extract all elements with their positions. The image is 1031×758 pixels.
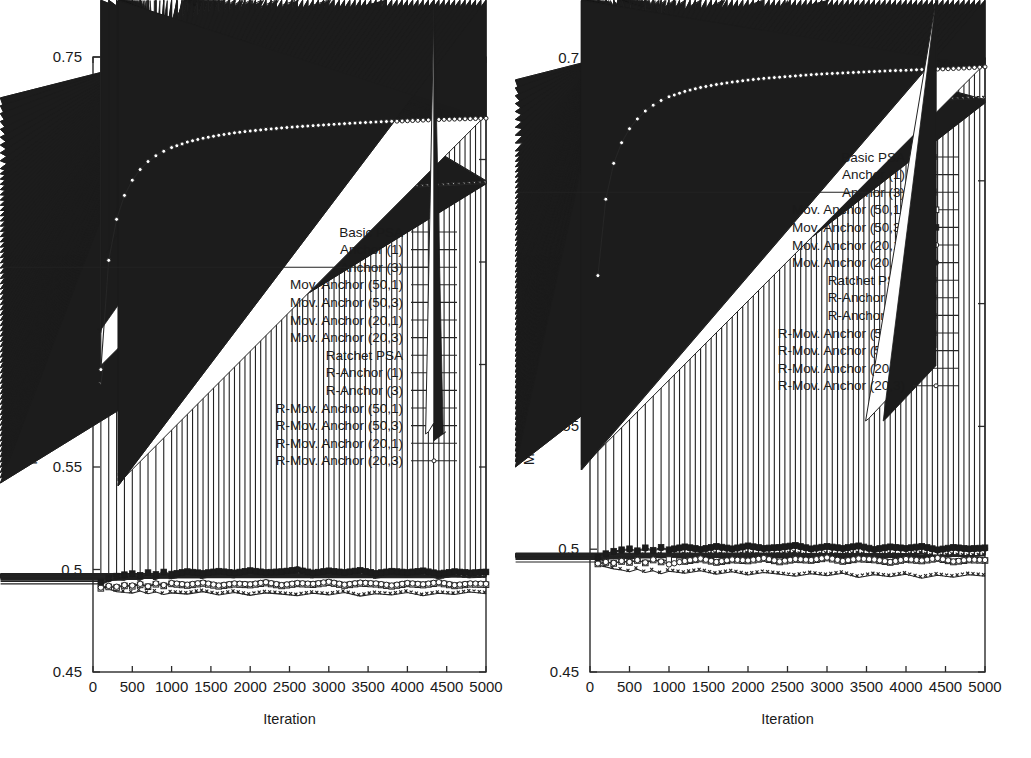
data-point-marker bbox=[343, 122, 347, 126]
data-point-marker bbox=[232, 131, 236, 135]
data-point-marker bbox=[877, 547, 882, 552]
data-point-marker bbox=[871, 572, 874, 575]
data-point-marker bbox=[867, 546, 872, 551]
data-point-marker bbox=[348, 121, 352, 125]
data-point-marker bbox=[268, 580, 273, 585]
data-point-marker bbox=[473, 571, 478, 576]
data-point-marker bbox=[122, 573, 127, 578]
data-point-marker bbox=[462, 570, 467, 575]
data-point-marker bbox=[206, 581, 211, 586]
data-point-marker bbox=[903, 571, 906, 574]
data-point-marker bbox=[746, 78, 750, 82]
data-point-marker bbox=[467, 589, 470, 592]
data-point-marker bbox=[122, 193, 126, 197]
y-tick-label: 0.75 bbox=[53, 48, 82, 65]
data-point-marker bbox=[389, 583, 394, 588]
data-point-marker bbox=[137, 588, 140, 591]
data-point-marker bbox=[972, 557, 977, 562]
data-point-marker bbox=[772, 76, 776, 80]
data-point-marker bbox=[798, 557, 803, 562]
data-point-marker bbox=[725, 81, 729, 85]
data-point-marker bbox=[227, 132, 231, 136]
data-point-marker bbox=[761, 547, 766, 552]
data-point-marker bbox=[611, 560, 616, 565]
data-point-marker bbox=[920, 68, 924, 72]
data-point-marker bbox=[217, 133, 221, 137]
data-point-marker bbox=[693, 87, 697, 91]
data-point-marker bbox=[672, 561, 677, 566]
data-point-marker bbox=[179, 581, 184, 586]
data-point-marker bbox=[720, 82, 724, 86]
data-point-marker bbox=[462, 590, 465, 593]
data-point-marker bbox=[180, 142, 184, 146]
data-point-marker bbox=[242, 581, 247, 586]
data-point-marker bbox=[405, 580, 410, 585]
data-point-marker bbox=[915, 68, 919, 72]
data-point-marker bbox=[394, 570, 399, 575]
data-point-marker bbox=[130, 572, 135, 577]
data-point-marker bbox=[145, 584, 150, 589]
data-point-marker bbox=[703, 547, 708, 552]
data-point-marker bbox=[803, 546, 808, 551]
data-point-marker bbox=[457, 582, 462, 587]
x-tick-label: 5000 bbox=[469, 678, 502, 695]
data-point-marker bbox=[756, 556, 761, 561]
data-point-marker bbox=[107, 258, 111, 262]
data-point-marker bbox=[484, 116, 488, 120]
data-point-marker bbox=[342, 570, 347, 575]
data-point-marker bbox=[379, 120, 383, 124]
data-point-marker bbox=[426, 118, 430, 122]
data-point-marker bbox=[687, 557, 692, 562]
data-point-marker bbox=[169, 572, 174, 577]
data-point-marker bbox=[161, 582, 166, 587]
data-point-marker bbox=[814, 546, 819, 551]
legend-item-1[interactable]: Anchor (1) bbox=[842, 167, 959, 182]
data-point-marker bbox=[369, 120, 373, 124]
data-point-marker bbox=[914, 545, 919, 550]
data-point-marker bbox=[983, 65, 987, 69]
data-point-marker bbox=[232, 581, 237, 586]
data-point-marker bbox=[279, 582, 284, 587]
x-tick-label: 2500 bbox=[273, 678, 306, 695]
data-point-marker bbox=[708, 558, 713, 563]
data-point-marker bbox=[861, 556, 866, 561]
data-point-marker bbox=[819, 556, 824, 561]
data-point-marker bbox=[935, 572, 938, 575]
data-point-marker bbox=[478, 570, 483, 575]
data-point-marker bbox=[666, 562, 671, 567]
data-point-marker bbox=[878, 69, 882, 73]
data-point-marker bbox=[730, 80, 734, 84]
data-point-marker bbox=[867, 70, 871, 74]
data-point-marker bbox=[473, 581, 478, 586]
data-point-marker bbox=[803, 557, 808, 562]
data-point-marker bbox=[174, 581, 179, 586]
legend-item-0[interactable]: Basic PSA bbox=[841, 150, 959, 165]
data-point-marker bbox=[389, 569, 394, 574]
data-point-marker bbox=[966, 572, 969, 575]
data-point-marker bbox=[431, 591, 434, 594]
data-point-marker bbox=[216, 583, 221, 588]
data-point-marker bbox=[185, 569, 190, 574]
data-point-marker bbox=[137, 581, 142, 586]
data-point-marker bbox=[457, 591, 460, 594]
data-point-marker bbox=[982, 546, 987, 551]
data-point-marker bbox=[946, 546, 951, 551]
data-point-marker bbox=[153, 573, 158, 578]
x-tick-label: 4000 bbox=[391, 678, 424, 695]
legend-item-13[interactable]: R-Mov. Anchor (20,3) bbox=[276, 453, 457, 468]
legend-label: Mov. Anchor (50,1) bbox=[792, 202, 905, 217]
data-point-marker bbox=[331, 569, 336, 574]
data-point-marker bbox=[893, 558, 898, 563]
data-point-marker bbox=[264, 127, 268, 131]
data-point-marker bbox=[824, 555, 829, 560]
data-point-marker bbox=[750, 571, 753, 574]
data-point-marker bbox=[399, 581, 404, 586]
data-point-marker bbox=[379, 581, 384, 586]
data-point-marker bbox=[441, 571, 446, 576]
data-point-marker bbox=[415, 569, 420, 574]
series-line bbox=[598, 565, 985, 578]
data-point-marker bbox=[709, 84, 713, 88]
x-tick-label: 500 bbox=[617, 678, 642, 695]
data-point-marker bbox=[190, 590, 193, 593]
data-point-marker bbox=[426, 570, 431, 575]
